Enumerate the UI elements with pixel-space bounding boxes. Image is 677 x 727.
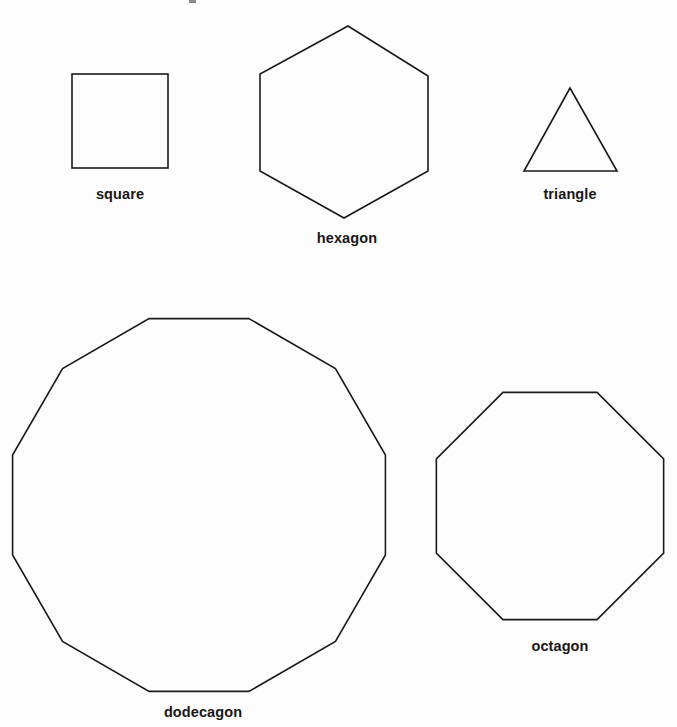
shape-label-dodecagon: dodecagon	[164, 704, 242, 720]
paper-speck-0	[189, 0, 196, 3]
shapes-figure-canvas	[0, 0, 677, 727]
shape-triangle	[524, 88, 617, 171]
shape-octagon	[436, 392, 663, 619]
shape-label-square: square	[96, 186, 144, 202]
shape-square	[72, 74, 168, 168]
shape-label-hexagon: hexagon	[317, 230, 377, 246]
shape-dodecagon	[13, 319, 386, 692]
shape-label-triangle: triangle	[543, 186, 596, 202]
polygon-outline-group	[13, 26, 664, 691]
shape-label-octagon: octagon	[531, 638, 588, 654]
shape-hexagon	[260, 26, 428, 218]
